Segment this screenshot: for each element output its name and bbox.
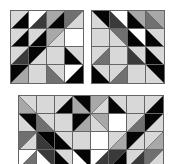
tile[interactable]	[91, 132, 109, 150]
tile[interactable]	[127, 96, 145, 114]
triangle-tile-icon	[145, 96, 163, 114]
tile[interactable]	[145, 96, 163, 114]
triangle-tile-icon	[37, 96, 55, 114]
tile[interactable]	[37, 150, 55, 164]
triangle-tile-icon	[73, 96, 91, 114]
tile[interactable]	[19, 132, 37, 150]
tile[interactable]	[11, 47, 29, 65]
puzzle-grid-top-left	[10, 10, 84, 84]
triangle-tile-icon	[37, 150, 55, 164]
tile[interactable]	[92, 47, 110, 65]
tile[interactable]	[55, 96, 73, 114]
triangle-tile-icon	[146, 29, 164, 47]
tile[interactable]	[29, 65, 47, 83]
triangle-tile-icon	[47, 47, 65, 65]
tile[interactable]	[47, 47, 65, 65]
tile[interactable]	[37, 114, 55, 132]
tile[interactable]	[73, 96, 91, 114]
triangle-tile-icon	[109, 114, 127, 132]
tile[interactable]	[47, 65, 65, 83]
tile[interactable]	[110, 65, 128, 83]
triangle-tile-icon	[110, 47, 128, 65]
tile[interactable]	[19, 114, 37, 132]
tile[interactable]	[145, 132, 163, 150]
tile[interactable]	[128, 11, 146, 29]
puzzle-grid-bottom	[18, 95, 164, 164]
tile[interactable]	[73, 150, 91, 164]
tile[interactable]	[92, 11, 110, 29]
triangle-tile-icon	[29, 47, 47, 65]
tile[interactable]	[91, 114, 109, 132]
triangle-tile-icon	[47, 29, 65, 47]
tile[interactable]	[47, 29, 65, 47]
triangle-tile-icon	[19, 96, 37, 114]
tile[interactable]	[65, 11, 83, 29]
tile[interactable]	[91, 96, 109, 114]
tile[interactable]	[11, 11, 29, 29]
tile[interactable]	[146, 11, 164, 29]
triangle-tile-icon	[65, 47, 83, 65]
triangle-tile-icon	[146, 11, 164, 29]
triangle-tile-icon	[92, 11, 110, 29]
triangle-tile-icon	[91, 96, 109, 114]
tile[interactable]	[29, 29, 47, 47]
tile[interactable]	[109, 114, 127, 132]
tile[interactable]	[92, 29, 110, 47]
triangle-tile-icon	[110, 11, 128, 29]
tile[interactable]	[55, 150, 73, 164]
triangle-tile-icon	[146, 47, 164, 65]
tile[interactable]	[127, 150, 145, 164]
tile[interactable]	[73, 114, 91, 132]
triangle-tile-icon	[19, 150, 37, 164]
tile[interactable]	[19, 150, 37, 164]
tile[interactable]	[110, 11, 128, 29]
triangle-tile-icon	[55, 96, 73, 114]
tile[interactable]	[65, 47, 83, 65]
tile[interactable]	[47, 11, 65, 29]
triangle-tile-icon	[127, 150, 145, 164]
triangle-tile-icon	[145, 114, 163, 132]
tile[interactable]	[29, 47, 47, 65]
tile[interactable]	[146, 47, 164, 65]
tile[interactable]	[55, 132, 73, 150]
tile[interactable]	[29, 11, 47, 29]
tile[interactable]	[11, 29, 29, 47]
tile[interactable]	[145, 150, 163, 164]
tile[interactable]	[65, 65, 83, 83]
triangle-tile-icon	[91, 150, 109, 164]
tile[interactable]	[73, 132, 91, 150]
tile[interactable]	[146, 29, 164, 47]
tile[interactable]	[37, 96, 55, 114]
tile[interactable]	[19, 96, 37, 114]
tile[interactable]	[109, 132, 127, 150]
triangle-tile-icon	[128, 47, 146, 65]
tile[interactable]	[91, 150, 109, 164]
tile[interactable]	[146, 65, 164, 83]
triangle-tile-icon	[128, 29, 146, 47]
tile[interactable]	[92, 65, 110, 83]
tile[interactable]	[65, 29, 83, 47]
tile[interactable]	[37, 132, 55, 150]
triangle-tile-icon	[55, 114, 73, 132]
tile[interactable]	[128, 47, 146, 65]
triangle-tile-icon	[11, 65, 29, 83]
triangle-tile-icon	[55, 150, 73, 164]
tile[interactable]	[110, 47, 128, 65]
tile[interactable]	[109, 96, 127, 114]
triangle-tile-icon	[145, 150, 163, 164]
triangle-tile-icon	[109, 150, 127, 164]
tile[interactable]	[128, 29, 146, 47]
triangle-tile-icon	[110, 65, 128, 83]
tile[interactable]	[127, 132, 145, 150]
tile[interactable]	[145, 114, 163, 132]
triangle-tile-icon	[65, 29, 83, 47]
tile[interactable]	[128, 65, 146, 83]
tile[interactable]	[11, 65, 29, 83]
puzzle-grid-top-right	[91, 10, 165, 84]
tile[interactable]	[109, 150, 127, 164]
tile[interactable]	[55, 114, 73, 132]
triangle-tile-icon	[29, 65, 47, 83]
triangle-tile-icon	[73, 150, 91, 164]
tile[interactable]	[127, 114, 145, 132]
tile[interactable]	[110, 29, 128, 47]
